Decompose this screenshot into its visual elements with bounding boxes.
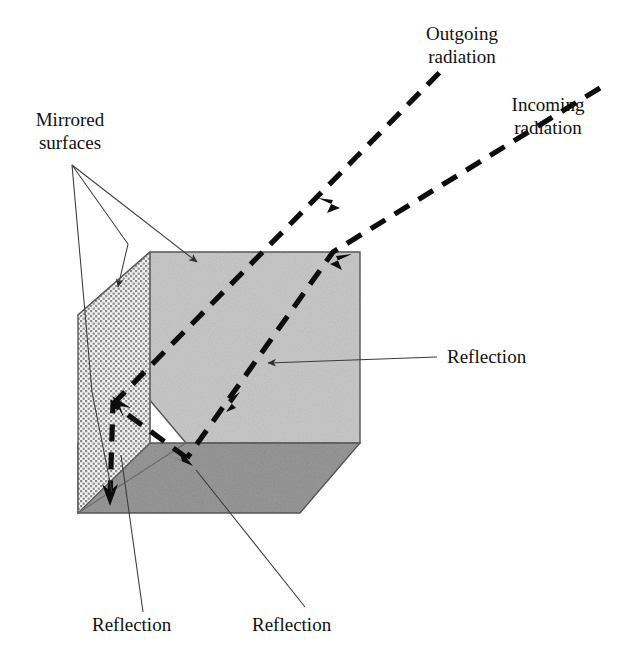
leader-mirrored-to-top-face [72, 165, 197, 262]
label-outgoing-radiation: Outgoing radiation [392, 22, 532, 68]
label-incoming-radiation: Incoming radiation [478, 93, 618, 139]
figure-canvas: Outgoing radiation Incoming radiation Mi… [0, 0, 621, 672]
outgoing-arrow-upper [318, 198, 340, 213]
label-reflection-right: Reflection [447, 345, 526, 368]
label-reflection-bottom-mid: Reflection [252, 613, 331, 636]
label-reflection-bottom-left: Reflection [92, 613, 171, 636]
label-mirrored-surfaces: Mirrored surfaces [5, 108, 135, 154]
leader-mirrored-to-left-face [72, 165, 128, 287]
corner-cube-body [78, 252, 360, 513]
